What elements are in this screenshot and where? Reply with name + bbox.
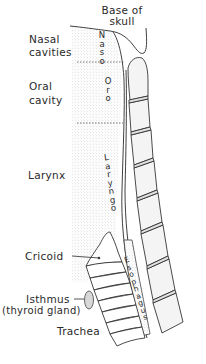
label-oral-cavity-line1: Oral: [29, 80, 52, 92]
label-nasal-cavities-line2: cavities: [29, 46, 72, 58]
label-naso: N a s o: [97, 31, 107, 65]
label-oral-cavity-line2: cavity: [29, 94, 62, 106]
label-oro: O r o: [103, 77, 113, 103]
label-trachea: Trachea: [57, 325, 100, 337]
label-base-of-skull-line2: skull: [92, 15, 152, 27]
label-cricoid: Cricoid: [25, 250, 63, 262]
label-nasal-cavities-line1: Nasal: [29, 33, 60, 45]
label-thyroid-gland: (thyroid gland): [2, 305, 81, 317]
pharynx-anatomy-diagram: Base of skull Nasal cavities Oral cavity…: [0, 0, 206, 364]
label-isthmus: Isthmus: [26, 293, 70, 305]
label-larynx: Larynx: [28, 169, 65, 181]
